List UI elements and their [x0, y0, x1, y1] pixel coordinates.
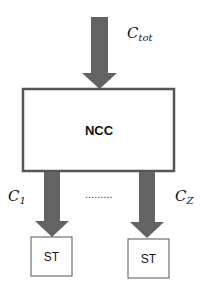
output-label-z: CZ [175, 187, 194, 206]
output-arrow-z [130, 172, 164, 238]
output-label-1: C1 [8, 187, 26, 206]
output-arrow-1 [35, 172, 69, 237]
input-arrow [82, 17, 117, 89]
st-label-1: ST [44, 250, 60, 264]
ellipsis: ......... [85, 188, 113, 200]
ncc-label: NCC [85, 123, 114, 138]
st-label-z: ST [141, 252, 157, 266]
input-label: Ctot [127, 24, 154, 43]
diagram-canvas: Ctot NCC C1 ......... CZ ST ST [0, 0, 200, 288]
